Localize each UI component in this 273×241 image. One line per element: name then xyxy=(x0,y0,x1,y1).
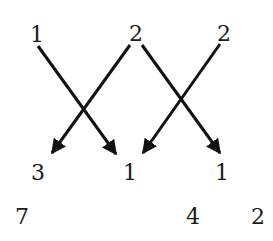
bottom-label-2: 4 xyxy=(186,204,200,229)
top-row-labels: 1 2 2 xyxy=(30,21,231,47)
bottom-label-3: 2 xyxy=(251,204,265,229)
top-label-3: 2 xyxy=(217,21,231,46)
top-label-1: 1 xyxy=(30,22,44,47)
top-label-2: 2 xyxy=(129,21,143,46)
middle-label-2: 1 xyxy=(123,160,137,185)
arrow-top-1-to-middle-1 xyxy=(38,46,116,154)
bottom-label-1: 7 xyxy=(15,204,29,229)
middle-label-3: 1 xyxy=(215,160,229,185)
arrows xyxy=(38,44,220,154)
bottom-row-labels: 7 4 2 xyxy=(15,204,265,229)
middle-label-1: 3 xyxy=(31,160,45,185)
arrow-top-2-to-middle-3 xyxy=(52,45,130,153)
crossing-arrows-diagram: 1 2 2 3 1 1 7 4 2 xyxy=(0,0,273,241)
middle-row-labels: 3 1 1 xyxy=(31,160,229,185)
